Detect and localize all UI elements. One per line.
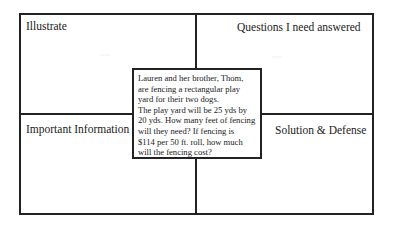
problem-line: yard for their two dogs. (138, 94, 256, 105)
word-problem-box: Lauren and her brother, Thom, are fencin… (132, 68, 262, 159)
quadrant-important-info-label: Important Information (26, 123, 129, 135)
problem-line: 20 yds. How many feet of fencing (138, 115, 256, 126)
problem-line: The play yard will be 25 yds by (138, 105, 256, 116)
problem-line: are fencing a rectangular play (138, 84, 256, 95)
watermark-left: ~~~ (100, 52, 110, 58)
quadrant-solution-label: Solution & Defense (275, 124, 366, 136)
problem-line: Lauren and her brother, Thom, (138, 73, 256, 84)
problem-line: $114 per 50 ft. roll, how much (138, 137, 256, 148)
watermark-right: ~~~ (272, 54, 282, 60)
quadrant-illustrate-label: Illustrate (26, 20, 67, 32)
quadrant-questions-label: Questions I need answered (237, 21, 361, 33)
problem-line: will the fencing cost? (138, 147, 256, 158)
problem-line: will they need? If fencing is (138, 126, 256, 137)
